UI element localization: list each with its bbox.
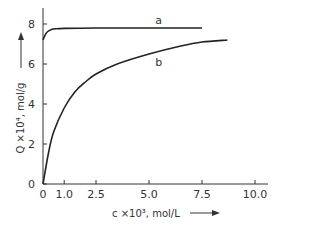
x-axis-arrow-icon bbox=[212, 210, 220, 216]
x-tick-label: 5.0 bbox=[140, 188, 158, 201]
y-tick-label: 0 bbox=[28, 178, 35, 191]
curve-label-a: a bbox=[155, 14, 162, 27]
curve-a bbox=[43, 28, 202, 40]
y-axis-title: Q ×10⁴, mol/g bbox=[15, 32, 26, 153]
y-axis-label: Q ×10⁴, mol/g bbox=[15, 83, 26, 154]
axes bbox=[43, 8, 268, 184]
adsorption-isotherm-chart: 02468 01.02.55.07.510.0 ab Q ×10⁴, mol/g… bbox=[0, 0, 314, 233]
x-tick-label: 1.0 bbox=[55, 188, 73, 201]
x-tick-label: 2.5 bbox=[87, 188, 105, 201]
y-tick-label: 6 bbox=[28, 58, 35, 71]
y-axis-arrow-icon bbox=[18, 32, 24, 40]
y-tick-label: 2 bbox=[28, 138, 35, 151]
x-tick-label: 10.0 bbox=[243, 188, 268, 201]
y-tick-label: 8 bbox=[28, 18, 35, 31]
x-tick-label: 0 bbox=[40, 188, 47, 201]
curve-label-b: b bbox=[155, 56, 162, 69]
x-axis-label: c ×10³, mol/L bbox=[112, 208, 180, 219]
y-ticks: 02468 bbox=[28, 18, 47, 191]
x-axis-title: c ×10³, mol/L bbox=[112, 208, 220, 219]
x-tick-label: 7.5 bbox=[193, 188, 211, 201]
x-ticks: 01.02.55.07.510.0 bbox=[40, 180, 268, 201]
curves bbox=[43, 28, 227, 184]
curve-b bbox=[43, 40, 227, 184]
y-tick-label: 4 bbox=[28, 98, 35, 111]
curve-labels: ab bbox=[155, 14, 162, 69]
